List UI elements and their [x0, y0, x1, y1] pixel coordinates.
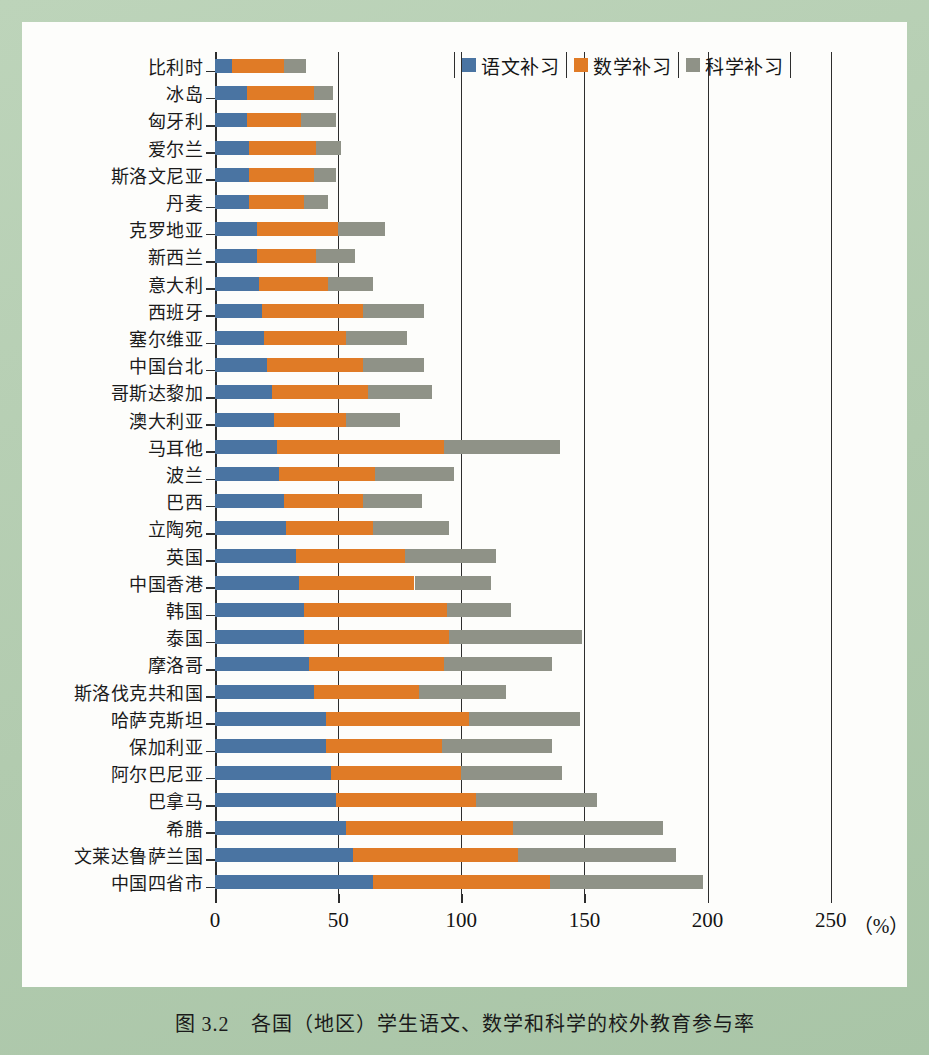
y-tick-mark — [206, 315, 215, 317]
category-label: 中国香港 — [129, 576, 203, 595]
category-label: 泰国 — [166, 630, 203, 649]
bar-segment-2 — [513, 821, 663, 835]
y-tick-mark — [206, 207, 215, 209]
x-tick-mark — [215, 894, 217, 903]
bar-segment-0 — [215, 603, 304, 617]
bar-segment-0 — [215, 521, 286, 535]
bar-segment-2 — [442, 739, 553, 753]
y-tick-mark — [206, 723, 215, 725]
gridline-150 — [584, 52, 585, 894]
category-label: 摩洛哥 — [148, 657, 204, 676]
x-tick-label: 100 — [421, 908, 501, 933]
bar-segment-1 — [336, 793, 476, 807]
bar-segment-0 — [215, 385, 272, 399]
category-label: 英国 — [166, 549, 203, 568]
bar-segment-2 — [373, 521, 449, 535]
category-label: 巴拿马 — [148, 793, 204, 812]
legend-swatch-icon — [462, 58, 476, 72]
bar-segment-1 — [232, 59, 284, 73]
bar-segment-0 — [215, 249, 257, 263]
bar-row — [215, 141, 341, 155]
y-tick-mark — [206, 751, 215, 753]
bar-segment-0 — [215, 766, 331, 780]
y-tick-mark — [206, 805, 215, 807]
y-tick-mark — [206, 343, 215, 345]
legend-entry-science[interactable]: 科学补习 — [678, 52, 791, 78]
bar-segment-0 — [215, 739, 326, 753]
y-tick-mark — [206, 234, 215, 236]
bar-segment-1 — [277, 440, 444, 454]
bar-segment-0 — [215, 413, 274, 427]
bar-segment-1 — [296, 549, 404, 563]
bar-segment-2 — [476, 793, 597, 807]
bar-segment-0 — [215, 467, 279, 481]
bar-segment-2 — [419, 685, 505, 699]
bar-row — [215, 494, 422, 508]
x-tick-mark — [461, 894, 463, 903]
figure-caption: 图 3.2 各国（地区）学生语文、数学和科学的校外教育参与率 — [0, 1008, 929, 1037]
bar-segment-1 — [272, 385, 368, 399]
bar-segment-1 — [304, 630, 449, 644]
x-tick-mark — [708, 894, 710, 903]
y-tick-mark — [206, 479, 215, 481]
bar-row — [215, 549, 496, 563]
bar-segment-1 — [279, 467, 375, 481]
bar-segment-1 — [262, 304, 363, 318]
bar-segment-0 — [215, 793, 336, 807]
bar-row — [215, 249, 355, 263]
bar-segment-2 — [346, 331, 408, 345]
bar-segment-1 — [264, 331, 345, 345]
gridline-250 — [831, 52, 832, 894]
bar-row — [215, 630, 582, 644]
bar-segment-1 — [304, 603, 447, 617]
y-tick-mark — [206, 560, 215, 562]
y-tick-mark — [206, 397, 215, 399]
category-label: 马耳他 — [148, 440, 204, 459]
bar-row — [215, 576, 491, 590]
bar-row — [215, 113, 336, 127]
bar-segment-2 — [469, 712, 580, 726]
category-label: 巴西 — [166, 494, 203, 513]
x-axis-unit-label: （%） — [853, 910, 910, 939]
y-tick-mark — [206, 587, 215, 589]
bar-segment-2 — [314, 86, 334, 100]
legend-swatch-icon — [686, 58, 700, 72]
bar-segment-0 — [215, 195, 249, 209]
bar-row — [215, 821, 663, 835]
bar-segment-2 — [363, 494, 422, 508]
category-label: 希腊 — [166, 821, 203, 840]
bar-segment-2 — [550, 875, 703, 889]
y-tick-mark — [206, 261, 215, 263]
y-tick-mark — [206, 506, 215, 508]
category-label: 哈萨克斯坦 — [111, 712, 204, 731]
gridline-200 — [708, 52, 709, 894]
category-label: 中国台北 — [129, 358, 203, 377]
category-label: 克罗地亚 — [129, 222, 203, 241]
bar-row — [215, 331, 407, 345]
bar-segment-2 — [444, 657, 552, 671]
bar-segment-2 — [405, 549, 496, 563]
bar-segment-1 — [247, 86, 314, 100]
bar-segment-0 — [215, 358, 267, 372]
bar-segment-2 — [415, 576, 491, 590]
legend-entry-chinese[interactable]: 语文补习 — [454, 52, 566, 78]
chart-panel: 比利时冰岛匈牙利爱尔兰斯洛文尼亚丹麦克罗地亚新西兰意大利西班牙塞尔维亚中国台北哥… — [22, 22, 907, 987]
category-label: 新西兰 — [148, 249, 204, 268]
x-tick-label: 150 — [544, 908, 624, 933]
bar-segment-0 — [215, 141, 249, 155]
category-label: 意大利 — [148, 277, 204, 296]
bar-segment-2 — [518, 848, 676, 862]
category-label: 文莱达鲁萨兰国 — [74, 848, 204, 867]
x-tick-mark — [338, 894, 340, 903]
bar-segment-2 — [314, 168, 336, 182]
legend-label: 数学补习 — [593, 52, 671, 79]
bar-row — [215, 685, 506, 699]
category-label: 韩国 — [166, 603, 203, 622]
y-tick-mark — [206, 533, 215, 535]
bar-row — [215, 59, 306, 73]
bar-segment-1 — [299, 576, 415, 590]
bar-segment-0 — [215, 277, 259, 291]
y-tick-mark — [206, 288, 215, 290]
y-tick-mark — [206, 696, 215, 698]
legend-entry-math[interactable]: 数学补习 — [566, 52, 678, 78]
